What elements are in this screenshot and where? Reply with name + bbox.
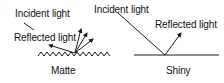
shiny-incident-label: Incident light — [94, 5, 149, 15]
matte-incident-ray — [24, 23, 34, 30]
matte-incident-label: Incident light — [15, 9, 70, 19]
reflection-diagram: Incident light Reflected light Matte Inc… — [0, 0, 224, 83]
matte-reflected-label: Reflected light — [14, 33, 76, 43]
shiny-reflected-label: Reflected light — [155, 20, 217, 30]
matte-surface-label: Matte — [51, 66, 76, 76]
shiny-reflected-ray — [165, 33, 181, 55]
shiny-surface-label: Shiny — [166, 66, 191, 76]
